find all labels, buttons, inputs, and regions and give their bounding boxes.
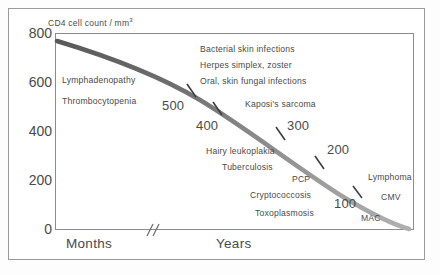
x-axis-label-months: Months xyxy=(66,236,112,251)
condition-lymphoma: Lymphoma xyxy=(368,172,412,182)
x-axis-label-years: Years xyxy=(216,236,252,251)
condition-lymphadenopathy: Lymphadenopathy xyxy=(62,75,135,85)
curve-value-100: 100 xyxy=(334,196,356,211)
curve-value-500: 500 xyxy=(162,98,184,113)
condition-mac: MAC xyxy=(361,213,381,223)
condition-herpes-simplex-zoster: Herpes simplex, zoster xyxy=(200,60,292,70)
condition-pcp: PCP xyxy=(292,174,310,184)
condition-thrombocytopenia: Thrombocytopenia xyxy=(62,96,136,106)
cd4-decline-figure: CD4 cell count / mm3 800 600 400 200 0 xyxy=(0,0,440,275)
curve-value-300: 300 xyxy=(287,118,309,133)
condition-tuberculosis: Tuberculosis xyxy=(222,162,273,172)
curve-value-200: 200 xyxy=(327,142,349,157)
curve-value-400: 400 xyxy=(196,118,218,133)
axis-break-mark-1 xyxy=(147,224,153,236)
condition-cryptococcosis: Cryptococcosis xyxy=(250,190,311,200)
condition-hairy-leukoplakia: Hairy leukoplakia xyxy=(206,146,275,156)
condition-oral-skin-fungal-infections: Oral, skin fungal infections xyxy=(200,76,306,86)
condition-toxoplasmosis: Toxoplasmosis xyxy=(255,208,314,218)
curve-tick-mark-200 xyxy=(315,156,324,169)
curve-tick-mark-300 xyxy=(276,127,285,140)
axis-break-mark-2 xyxy=(153,224,159,236)
cd4-curve-graphic xyxy=(0,0,440,275)
condition-kaposis-sarcoma: Kaposi's sarcoma xyxy=(245,99,316,109)
condition-bacterial-skin-infections: Bacterial skin infections xyxy=(200,44,295,54)
condition-cmv: CMV xyxy=(381,192,401,202)
